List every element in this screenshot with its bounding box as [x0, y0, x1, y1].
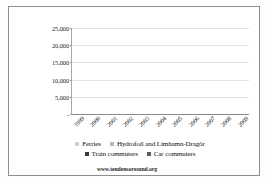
legend-item[interactable]: Ferries — [75, 140, 101, 148]
bar-slot — [104, 28, 120, 114]
y-axis-tick-label: 25,000 — [52, 25, 69, 32]
chart-legend: FerriesHydrofoil and Limhamn-DragörTrain… — [23, 140, 257, 160]
bar-slot — [72, 28, 88, 114]
y-axis-tick-mark — [70, 114, 72, 115]
y-axis-tick-label: 15,000 — [52, 59, 69, 66]
bar-slot — [201, 28, 217, 114]
bar-slot — [233, 28, 249, 114]
bar-slot — [120, 28, 136, 114]
legend-item[interactable]: Train commuters — [85, 150, 138, 158]
bar-slot — [152, 28, 168, 114]
legend-item[interactable]: Car commuters — [147, 150, 196, 158]
legend-label: Ferries — [82, 140, 101, 148]
chart-frame: 25,00020,00015,00010,0005,000- 199920002… — [8, 6, 260, 176]
legend-swatch-icon — [110, 142, 114, 146]
y-axis-tick-label: 10,000 — [52, 76, 69, 83]
legend-label: Train commuters — [92, 150, 138, 158]
bar-group — [72, 28, 249, 114]
bar-slot — [217, 28, 233, 114]
legend-row: FerriesHydrofoil and Limhamn-Dragör — [23, 140, 257, 148]
source-url: www.tendensoresund.org — [9, 166, 259, 172]
legend-item[interactable]: Hydrofoil and Limhamn-Dragör — [110, 140, 205, 148]
legend-swatch-icon — [75, 142, 79, 146]
y-axis-tick-label: - — [67, 111, 69, 118]
legend-row: Train commutersCar commuters — [23, 150, 257, 158]
bar-slot — [88, 28, 104, 114]
plot-wrapper: 25,00020,00015,00010,0005,000- — [53, 21, 251, 122]
bar-slot — [185, 28, 201, 114]
bar-slot — [136, 28, 152, 114]
plot-area: 25,00020,00015,00010,0005,000- — [71, 28, 249, 115]
y-axis-tick-label: 5,000 — [55, 93, 69, 100]
legend-label: Car commuters — [154, 150, 196, 158]
legend-swatch-icon — [85, 152, 89, 156]
legend-label: Hydrofoil and Limhamn-Dragör — [117, 140, 205, 148]
screenshot-root: 25,00020,00015,00010,0005,000- 199920002… — [0, 0, 271, 183]
y-axis-tick-label: 20,000 — [52, 42, 69, 49]
legend-swatch-icon — [147, 152, 151, 156]
bar-slot — [169, 28, 185, 114]
